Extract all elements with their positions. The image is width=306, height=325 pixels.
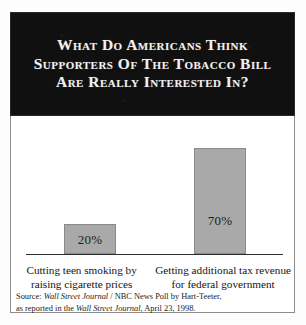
bar-value-label: 70% [208, 213, 232, 229]
bar-value-label: 20% [78, 232, 102, 248]
category-label-1: Getting additional tax revenue for feder… [152, 263, 294, 292]
source-line-1-suffix: / NBC News Poll by Hart-Teeter, [108, 292, 221, 301]
axis-baseline [26, 254, 283, 255]
title-line-1: What Do Americans Think [57, 36, 248, 55]
category-label-1-line-2: for federal government [155, 277, 291, 291]
plot-area: 20% 70% [11, 117, 294, 262]
chart-title-banner: What Do Americans Think Supporters Of Th… [10, 12, 295, 116]
source-note: Source: Wall Street Journal / NBC News P… [16, 291, 284, 315]
bar-tax-revenue: 70% [194, 148, 246, 254]
source-line-1: Source: Wall Street Journal / NBC News P… [16, 291, 284, 303]
title-line-2: Supporters Of The Tobacco Bill [34, 55, 272, 74]
category-label-0: Cutting teen smoking by raising cigarett… [11, 263, 152, 292]
source-line-1-prefix: Source: [16, 292, 44, 301]
category-label-0-line-2: raising cigarette prices [14, 277, 149, 291]
title-line-3: Are Really Interested In? [56, 73, 249, 92]
source-line-1-publication: Wall Street Journal [44, 292, 109, 301]
category-axis-labels: Cutting teen smoking by raising cigarett… [11, 263, 294, 292]
source-line-2-suffix: , April 23, 1998. [141, 304, 196, 313]
bar-cutting-teen-smoking: 20% [64, 224, 116, 254]
source-line-2: as reported in the Wall Street Journal, … [16, 303, 284, 315]
source-line-2-publication: Wall Street Journal [76, 304, 141, 313]
source-line-2-prefix: as reported in the [16, 304, 76, 313]
category-label-1-line-1: Getting additional tax revenue [155, 263, 291, 277]
category-label-0-line-1: Cutting teen smoking by [14, 263, 149, 277]
chart-figure: What Do Americans Think Supporters Of Th… [0, 0, 306, 325]
